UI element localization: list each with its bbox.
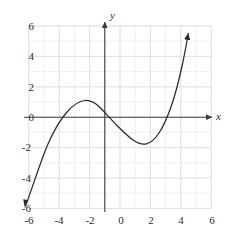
y-tick-label-4: 4 [14, 51, 34, 62]
x-tick-label-neg4: -4 [49, 215, 69, 226]
cartesian-plot [0, 0, 230, 234]
x-axis-label: x [216, 111, 221, 122]
y-tick-label-neg6: -6 [11, 203, 31, 214]
y-tick-label-0: 0 [14, 112, 34, 123]
y-tick-label-6: 6 [14, 21, 34, 32]
x-tick-label-2: 2 [141, 215, 161, 226]
x-tick-label-neg6: -6 [19, 215, 39, 226]
x-tick-label-neg2: -2 [80, 215, 100, 226]
graph-figure: 6 4 2 0 -2 -4 -6 -6 -4 -2 0 2 4 6 y x [0, 0, 230, 234]
y-axis-label: y [110, 10, 115, 21]
y-tick-label-neg2: -2 [11, 142, 31, 153]
cubic-curve [26, 34, 189, 206]
x-tick-label-6: 6 [202, 215, 222, 226]
x-tick-label-0: 0 [111, 215, 131, 226]
y-tick-label-2: 2 [14, 82, 34, 93]
x-tick-label-4: 4 [171, 215, 191, 226]
y-tick-label-neg4: -4 [11, 173, 31, 184]
